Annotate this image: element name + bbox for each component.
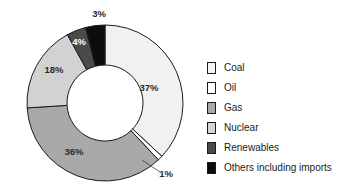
legend-item-label: Nuclear: [224, 123, 258, 133]
legend-swatch-icon: [207, 82, 216, 94]
legend-item-nuclear[interactable]: Nuclear: [207, 118, 347, 138]
donut-slices-group: [27, 25, 183, 181]
legend-swatch-icon: [207, 162, 216, 174]
slice-value-label-nuclear: 18%: [44, 64, 64, 75]
legend-swatch-icon: [207, 122, 216, 134]
legend-item-label: Others including imports: [224, 163, 332, 173]
donut-slice-gas[interactable]: [27, 105, 158, 181]
slice-value-label-gas: 36%: [64, 146, 84, 157]
legend-swatch-icon: [207, 102, 216, 114]
energy-mix-chart-figure: 37%1%36%18%4%3% CoalOilGasNuclearRenewab…: [0, 0, 348, 192]
donut-chart-area: 37%1%36%18%4%3%: [0, 0, 200, 192]
legend-swatch-icon: [207, 62, 216, 74]
slice-value-label-oil: 1%: [159, 168, 173, 179]
legend-item-oil[interactable]: Oil: [207, 78, 347, 98]
legend-item-gas[interactable]: Gas: [207, 98, 347, 118]
legend-item-label: Coal: [224, 63, 245, 73]
legend-item-others[interactable]: Others including imports: [207, 158, 347, 178]
slice-value-label-renewables: 4%: [72, 36, 86, 47]
legend-swatch-icon: [207, 142, 216, 154]
legend-item-label: Renewables: [224, 143, 279, 153]
legend-item-coal[interactable]: Coal: [207, 58, 347, 78]
legend-item-label: Oil: [224, 83, 236, 93]
donut-chart-svg: 37%1%36%18%4%3%: [0, 0, 200, 192]
legend-item-label: Gas: [224, 103, 242, 113]
legend-item-renewables[interactable]: Renewables: [207, 138, 347, 158]
slice-value-label-others: 3%: [92, 8, 106, 19]
chart-legend: CoalOilGasNuclearRenewablesOthers includ…: [207, 58, 347, 178]
slice-value-label-coal: 37%: [139, 82, 159, 93]
